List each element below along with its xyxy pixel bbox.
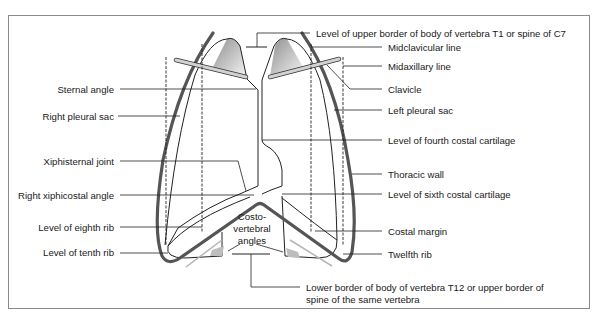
leader-xiphisternal	[120, 161, 246, 191]
left-rib-shade	[286, 248, 300, 258]
label-thoracic-wall: Thoracic wall	[388, 169, 444, 180]
label-sternal-angle: Sternal angle	[57, 84, 114, 95]
label-costal-margin: Costal margin	[388, 226, 447, 237]
label-level-tenth-rib: Level of tenth rib	[43, 247, 114, 258]
label-left-pleural-sac: Left pleural sac	[388, 105, 453, 116]
label-level-eighth-rib: Level of eighth rib	[38, 222, 114, 233]
label-level-sixth-costal-cartilage: Level of sixth costal cartilage	[388, 189, 511, 200]
label-xiphisternal-joint: Xiphisternal joint	[44, 156, 114, 167]
label-right-xiphicostal-angle: Right xiphicostal angle	[18, 190, 114, 201]
left-lower-reflection	[282, 196, 337, 258]
label-midaxillary-line: Midaxillary line	[388, 61, 451, 72]
label-upper-border-t1: Level of upper border of body of vertebr…	[316, 28, 566, 39]
label-lower-border-t12-line1: Lower border of body of vertebra T12 or …	[306, 282, 544, 293]
t12-leader	[251, 254, 300, 287]
label-lower-border-t12-line2: spine of the same vertebra	[306, 294, 420, 305]
leader-clavicle	[327, 65, 382, 89]
cv-line-3: angles	[222, 235, 282, 247]
cv-line-1: Costo-	[222, 211, 282, 223]
label-midclavicular-line: Midclavicular line	[388, 42, 461, 53]
label-clavicle: Clavicle	[388, 84, 422, 95]
cv-line-2: vertebral	[222, 223, 282, 235]
left-lung-base	[282, 198, 337, 240]
label-level-fourth-costal-cartilage: Level of fourth costal cartilage	[388, 135, 515, 146]
label-costovertebral-angles: Costo- vertebral angles	[222, 211, 282, 247]
label-twelfth-rib: Twelfth rib	[388, 249, 432, 260]
label-right-pleural-sac: Right pleural sac	[43, 111, 114, 122]
